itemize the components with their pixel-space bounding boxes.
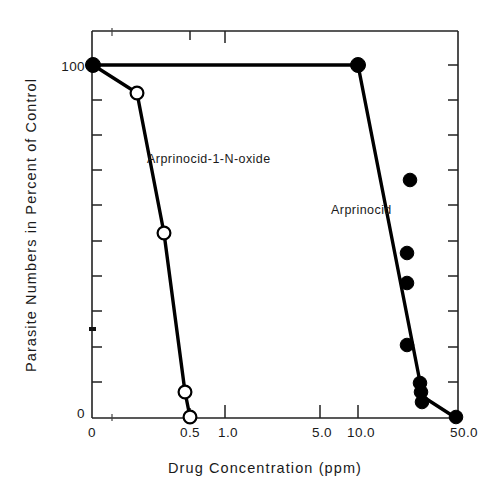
y-axis-title: Parasite Numbers in Percent of Control — [23, 78, 39, 372]
x-tick-label-0: 0 — [88, 425, 96, 440]
data-point — [351, 58, 366, 73]
y-axis-marker-blob — [89, 327, 96, 331]
x-tick-label-50-0: 50.0 — [450, 425, 478, 440]
x-tick-label-1-0: 1.0 — [218, 425, 238, 440]
series-arprinocid-1-n-oxide — [93, 65, 196, 423]
x-tick-label-5-0: 5.0 — [312, 425, 332, 440]
data-point — [158, 227, 171, 240]
data-point — [400, 338, 414, 352]
data-point — [449, 410, 463, 424]
series-arprinocid-path — [93, 65, 456, 418]
y-tick-label-0: 0 — [77, 406, 85, 421]
data-point — [400, 276, 414, 290]
y-axis-ticks-left — [89, 65, 102, 382]
x-tick-label-0-5: 0.5 — [180, 425, 200, 440]
x-tick-label-10-0: 10.0 — [347, 425, 375, 440]
data-point — [415, 395, 429, 409]
data-point — [403, 173, 417, 187]
chart-figure: 100 0 0 0.5 1.0 5.0 10.0 50.0 Drug Conce… — [0, 0, 501, 490]
data-point — [179, 386, 192, 399]
data-point — [400, 246, 414, 260]
y-tick-label-100: 100 — [61, 59, 85, 74]
series-noxide-path — [93, 65, 190, 417]
y-axis-ticks-right — [448, 65, 458, 382]
series-label-arprinocid: Arprinocid — [331, 203, 392, 217]
x-axis-title: Drug Concentration (ppm) — [168, 460, 362, 476]
dose-response-plot: 100 0 0 0.5 1.0 5.0 10.0 50.0 Drug Conce… — [0, 0, 501, 490]
data-point — [184, 411, 197, 424]
series-label-arprinocid-1-n-oxide: Arprinocid-1-N-oxide — [147, 152, 271, 166]
axis-frame — [92, 31, 458, 418]
data-point — [131, 87, 144, 100]
